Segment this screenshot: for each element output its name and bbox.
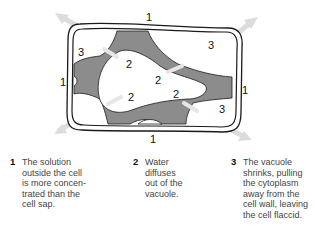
label-wall-top: 1 xyxy=(146,11,152,23)
label-vacuole-lower-left: 2 xyxy=(128,91,134,103)
legend-text: The vacuole shrinks, pulling the cytopla… xyxy=(243,157,315,220)
label-wall-right: 1 xyxy=(242,84,248,96)
legend-item-2: 2 Water diffuses out of the vacuole. xyxy=(133,157,213,199)
label-vacuole-lower-right: 2 xyxy=(173,88,179,100)
legend-text: Water diffuses out of the vacuole. xyxy=(145,157,213,199)
plasmolysis-cell-diagram: 1 1 1 1 3 3 3 2 2 2 2 xyxy=(0,0,315,150)
label-gap-bottom-right: 3 xyxy=(219,103,225,115)
legend-number: 2 xyxy=(133,157,138,168)
label-vacuole-center: 2 xyxy=(155,74,161,86)
label-gap-top-left: 3 xyxy=(78,46,84,58)
legend-number: 1 xyxy=(10,157,15,168)
legend-item-1: 1 The solution outside the cell is more … xyxy=(10,157,100,210)
legend-number: 3 xyxy=(231,157,236,168)
label-gap-top-right: 3 xyxy=(208,39,214,51)
label-wall-bottom: 1 xyxy=(150,133,156,145)
legend-item-3: 3 The vacuole shrinks, pulling the cytop… xyxy=(231,157,315,220)
label-vacuole-upper-left: 2 xyxy=(126,58,132,70)
label-wall-left: 1 xyxy=(60,76,66,88)
legend-text: The solution outside the cell is more co… xyxy=(22,157,100,210)
